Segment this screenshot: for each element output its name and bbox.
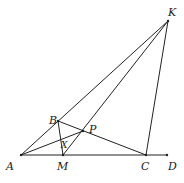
segment-ck <box>146 21 168 155</box>
point-b <box>57 120 59 122</box>
label-m: M <box>56 160 69 173</box>
label-c: C <box>141 160 150 173</box>
segment-ap <box>21 131 83 155</box>
label-p: P <box>88 123 97 136</box>
geometry-diagram: ABPXMCDK <box>0 0 184 183</box>
point-a <box>20 154 22 156</box>
point-d <box>166 154 168 156</box>
label-k: K <box>167 6 177 19</box>
label-d: D <box>167 160 177 173</box>
segment-bc <box>58 121 146 155</box>
point-m <box>62 154 64 156</box>
point-k <box>167 20 169 22</box>
label-a: A <box>5 160 14 173</box>
label-b: B <box>48 114 57 127</box>
label-x: X <box>60 140 68 150</box>
labels: ABPXMCDK <box>5 6 177 173</box>
segment-mk <box>63 21 168 155</box>
point-p <box>82 130 84 132</box>
point-c <box>145 154 147 156</box>
